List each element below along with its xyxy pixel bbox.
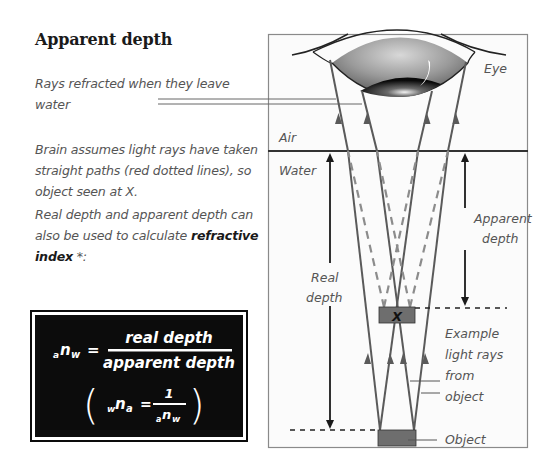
example-label-2: light rays [445, 347, 504, 362]
example-label-3: from [445, 368, 474, 383]
real-depth-label-1: Real [311, 270, 339, 285]
water-label: Water [279, 163, 317, 178]
object-label: Object [445, 432, 487, 447]
eye-label: Eye [484, 61, 507, 76]
example-label-4: object [445, 389, 485, 404]
apparent-depth-diagram: X Eye Air Water Apparent depth Real dept… [0, 0, 556, 476]
apparent-depth-label-2: depth [482, 231, 518, 246]
real-depth-label-2: depth [306, 290, 342, 305]
object-box [378, 430, 416, 446]
image-x-label: X [391, 309, 403, 324]
air-label: Air [278, 130, 297, 145]
apparent-depth-label-1: Apparent [473, 211, 533, 226]
example-label-1: Example [445, 326, 500, 341]
